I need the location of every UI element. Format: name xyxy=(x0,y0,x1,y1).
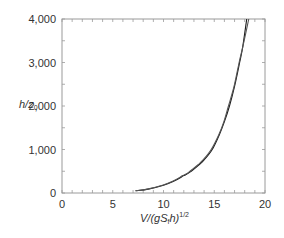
ticks xyxy=(62,19,265,193)
series xyxy=(135,19,249,191)
axes xyxy=(62,19,265,193)
x-tick-label: 5 xyxy=(110,198,116,210)
y-tick-label: 0 xyxy=(50,187,56,199)
x-tick-label: 0 xyxy=(59,198,65,210)
y-tick-label: 1,000 xyxy=(28,144,56,156)
series-line-curve-2 xyxy=(135,19,249,191)
x-tick-label: 20 xyxy=(259,198,271,210)
y-tick-label: 4,000 xyxy=(28,13,56,25)
x-tick-label: 10 xyxy=(157,198,169,210)
series-line-curve-1 xyxy=(136,19,247,191)
y-tick-label: 3,000 xyxy=(28,57,56,69)
chart: 0510152001,0002,0003,0004,000 h/z0 V/(gS… xyxy=(0,0,284,238)
tick-labels: 0510152001,0002,0003,0004,000 xyxy=(28,13,271,210)
plot-frame xyxy=(62,19,265,193)
x-axis-label: V/(gSfh)1/2 xyxy=(140,211,189,225)
x-tick-label: 15 xyxy=(208,198,220,210)
